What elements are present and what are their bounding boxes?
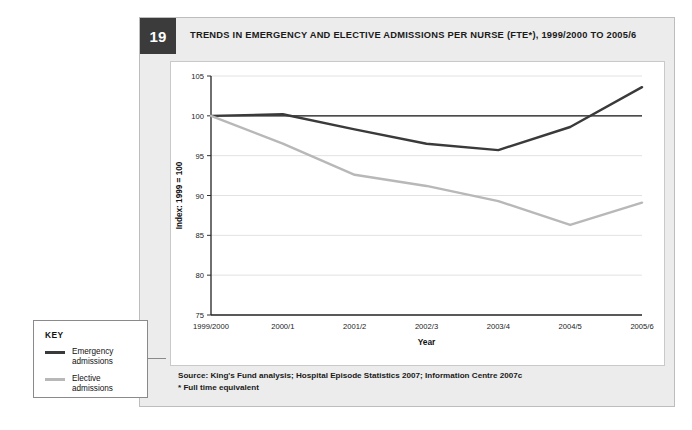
line-chart: 75808590951001051999/20002000/12001/2200…	[171, 62, 664, 365]
y-tick-label: 95	[196, 152, 204, 161]
x-tick-label: 2000/1	[271, 322, 294, 331]
figure-number-badge: 19	[140, 18, 176, 54]
x-tick-label: 2004/5	[559, 322, 582, 331]
legend-label-emergency: Emergency admissions	[72, 347, 113, 368]
legend-swatch-elective	[45, 378, 65, 381]
y-tick-label: 100	[191, 112, 204, 121]
series-line-elective	[211, 116, 642, 225]
legend-swatch-emergency	[45, 351, 65, 354]
source-line-1: Source: King's Fund analysis; Hospital E…	[178, 370, 648, 382]
y-tick-label: 85	[196, 231, 204, 240]
y-tick-label: 90	[196, 192, 204, 201]
figure-container: 19 TRENDS IN EMERGENCY AND ELECTIVE ADMI…	[139, 17, 675, 407]
x-tick-label: 2002/3	[415, 322, 438, 331]
x-tick-label: 2005/6	[630, 322, 653, 331]
y-tick-label: 75	[196, 311, 204, 320]
chart-panel: 75808590951001051999/20002000/12001/2200…	[170, 61, 665, 366]
source-note: Source: King's Fund analysis; Hospital E…	[178, 370, 648, 393]
legend-key-box: KEY Emergency admissions Elective admiss…	[33, 320, 148, 398]
legend-label-elective: Elective admissions	[72, 374, 113, 395]
x-axis-title: Year	[418, 337, 436, 347]
legend-item-elective: Elective admissions	[45, 374, 147, 395]
legend-connector-line	[148, 358, 166, 359]
x-tick-label: 1999/2000	[193, 322, 229, 331]
legend-item-emergency: Emergency admissions	[45, 347, 147, 368]
x-tick-label: 2001/2	[343, 322, 366, 331]
figure-header: 19 TRENDS IN EMERGENCY AND ELECTIVE ADMI…	[140, 18, 674, 54]
figure-title: TRENDS IN EMERGENCY AND ELECTIVE ADMISSI…	[176, 30, 674, 41]
y-tick-label: 80	[196, 271, 204, 280]
y-tick-label: 105	[191, 72, 204, 81]
y-axis-title: Index: 1999 = 100	[175, 161, 184, 229]
x-tick-label: 2003/4	[487, 322, 510, 331]
legend-title: KEY	[45, 330, 147, 340]
source-line-2: * Full time equivalent	[178, 382, 648, 394]
